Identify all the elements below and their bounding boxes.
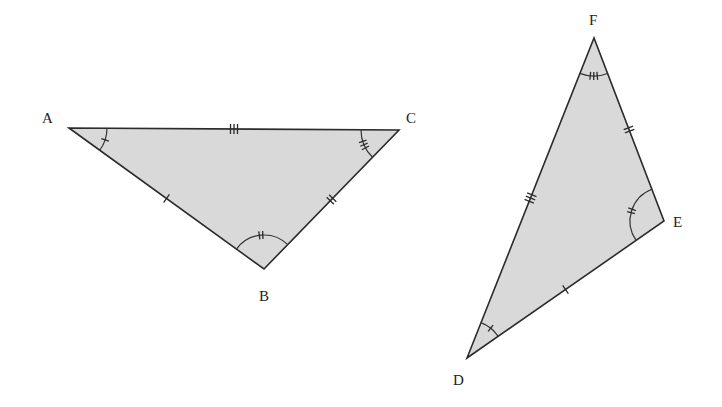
triangle-def-shape [467,38,664,358]
vertex-label-a: A [42,110,53,126]
vertex-label-e: E [673,214,682,230]
triangle-abc-shape [69,128,399,269]
vertex-label-d: D [453,372,464,388]
angle-tick-mark-f [590,72,591,80]
vertex-label-c: C [406,110,416,126]
triangle-def: DEF [453,12,682,388]
angle-tick-mark-f [597,72,598,80]
vertex-label-f: F [589,12,597,28]
vertex-label-b: B [259,288,269,304]
congruent-triangles-diagram: ABC DEF [0,0,722,407]
triangle-abc: ABC [42,110,416,304]
